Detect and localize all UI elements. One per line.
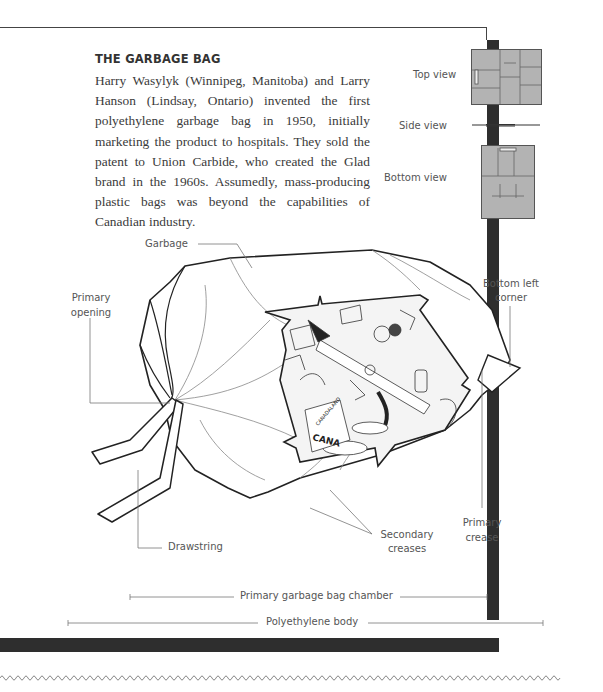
label-primary-opening-line2: opening (62, 305, 120, 320)
garbage-bag-illustration: CANA CANADALAND (0, 0, 603, 692)
label-garbage: Garbage (145, 238, 188, 249)
wavy-divider (0, 672, 603, 684)
label-polyethylene-body: Polyethylene body (266, 616, 358, 627)
label-bottom-left-corner: Bottom left corner (478, 277, 544, 305)
label-secondary-creases-line1: Secondary (374, 528, 440, 542)
secondary-creases-leader-2 (330, 490, 372, 534)
label-bottom-left-corner-line1: Bottom left (478, 277, 544, 291)
label-secondary-creases: Secondary creases (374, 528, 440, 556)
label-secondary-creases-line2: creases (374, 542, 440, 556)
secondary-creases-leader-1 (310, 508, 372, 534)
label-drawstring: Drawstring (168, 541, 223, 552)
label-primary-chamber: Primary garbage bag chamber (240, 590, 393, 601)
label-primary-crease: Primary crease (456, 515, 508, 545)
label-primary-crease-line1: Primary (456, 515, 508, 530)
label-bottom-left-corner-line2: corner (478, 291, 544, 305)
label-primary-opening-line1: Primary (62, 290, 120, 305)
label-primary-crease-line2: crease (456, 530, 508, 545)
label-primary-opening: Primary opening (62, 290, 120, 320)
